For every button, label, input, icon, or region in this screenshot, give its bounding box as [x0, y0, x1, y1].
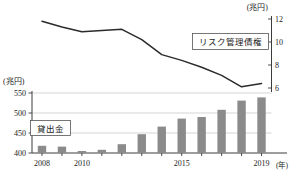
- bar-2016: [197, 117, 205, 153]
- combo-chart: 12 10 8 6 (兆円): [0, 0, 295, 172]
- left-axis-tick-450: 450: [14, 129, 26, 138]
- x-axis-label-2010: 2010: [74, 159, 90, 168]
- risk-managed-claims-line: [42, 21, 262, 87]
- bar-2018: [237, 101, 245, 153]
- x-axis-unit: (年): [276, 160, 288, 170]
- chart-container: 12 10 8 6 (兆円): [0, 0, 295, 172]
- right-axis-unit: (兆円): [247, 2, 269, 12]
- risk-managed-claims-legend: リスク管理債権: [193, 34, 269, 50]
- left-axis-unit: (兆円): [3, 76, 25, 86]
- bar-2015: [178, 119, 186, 153]
- bar-2012: [118, 144, 126, 153]
- x-axis-label-2015: 2015: [174, 159, 190, 168]
- bar-2017: [217, 110, 225, 153]
- bar-2014: [158, 127, 166, 153]
- loans-legend-label: 貸出金: [37, 124, 64, 134]
- bar-2008: [38, 146, 46, 153]
- right-axis-tick-12: 12: [275, 15, 283, 24]
- x-axis-label-2008: 2008: [34, 159, 50, 168]
- bar-2019: [257, 97, 265, 153]
- bar-2011: [98, 150, 106, 153]
- left-axis-tick-550: 550: [14, 89, 26, 98]
- bar-2010: [78, 151, 86, 153]
- right-axis-tick-10: 10: [275, 38, 283, 47]
- left-axis-tick-500: 500: [14, 109, 26, 118]
- right-axis-tick-8: 8: [275, 61, 279, 70]
- loans-legend: 貸出金: [31, 121, 71, 136]
- right-axis-tick-6: 6: [275, 84, 279, 93]
- bar-2013: [138, 134, 146, 153]
- risk-managed-claims-legend-label: リスク管理債権: [199, 37, 262, 47]
- x-axis-tick-labels: 2008201020152019: [34, 159, 270, 168]
- bar-2009: [58, 147, 66, 153]
- left-axis-tick-400: 400: [14, 149, 26, 158]
- loans-bar-series: [38, 97, 266, 153]
- x-axis-label-2019: 2019: [254, 159, 270, 168]
- right-axis-ticks: [268, 19, 272, 88]
